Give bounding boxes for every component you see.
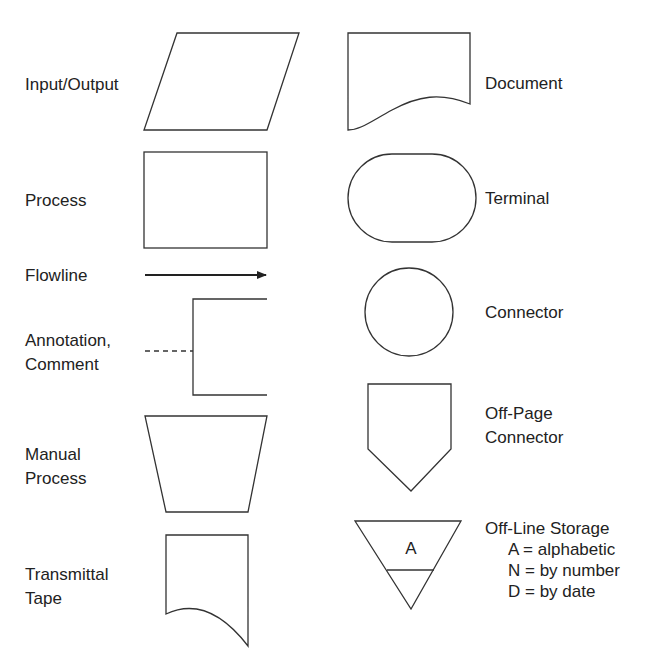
label-annotation-line2: Comment — [25, 354, 111, 375]
label-terminal: Terminal — [485, 188, 549, 209]
input-output-shape — [144, 33, 299, 130]
label-off-page-connector: Off-Page Connector — [485, 403, 563, 448]
label-input-output: Input/Output — [25, 74, 119, 95]
label-transmittal-tape: Transmittal Tape — [25, 564, 108, 609]
label-off-page-line1: Off-Page — [485, 403, 563, 424]
label-manual-process-line2: Process — [25, 468, 86, 489]
label-flowline: Flowline — [25, 265, 87, 286]
terminal-shape — [348, 154, 476, 242]
label-off-line-storage-title: Off-Line Storage — [485, 518, 620, 539]
label-manual-process-line1: Manual — [25, 444, 86, 465]
label-connector: Connector — [485, 302, 563, 323]
label-annotation-line1: Annotation, — [25, 330, 111, 351]
off-page-connector-shape — [368, 384, 451, 491]
label-off-page-line2: Connector — [485, 427, 563, 448]
label-off-line-storage: Off-Line Storage A = alphabetic N = by n… — [485, 518, 620, 602]
legend-by-number: N = by number — [485, 560, 620, 581]
manual-process-shape — [145, 416, 267, 512]
document-shape — [348, 33, 470, 130]
label-transmittal-tape-line1: Transmittal — [25, 564, 108, 585]
label-manual-process: Manual Process — [25, 444, 86, 489]
connector-shape — [365, 268, 453, 356]
process-shape — [144, 152, 267, 248]
label-document: Document — [485, 73, 562, 94]
label-transmittal-tape-line2: Tape — [25, 588, 108, 609]
annotation-bracket — [193, 299, 267, 395]
label-process: Process — [25, 190, 86, 211]
transmittal-tape-shape — [166, 535, 248, 646]
off-line-storage-letter: A — [405, 538, 416, 559]
off-line-storage-shape — [355, 521, 461, 609]
legend-by-date: D = by date — [485, 581, 620, 602]
label-annotation: Annotation, Comment — [25, 330, 111, 375]
legend-alphabetic: A = alphabetic — [485, 539, 620, 560]
